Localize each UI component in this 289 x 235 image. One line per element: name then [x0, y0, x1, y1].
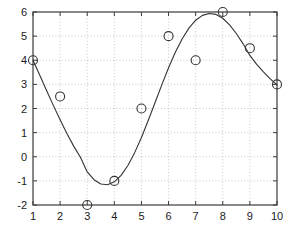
x-tick-label: 2 [57, 210, 63, 222]
y-tick-label: -2 [17, 199, 27, 211]
y-tick-label: 5 [21, 30, 27, 42]
chart-screenshot: 12345678910 -2-10123456 [0, 0, 289, 235]
x-tick-label: 9 [247, 210, 253, 222]
x-tick-label: 6 [165, 210, 171, 222]
y-tick-label: 2 [21, 103, 27, 115]
x-tick-label: 10 [271, 210, 283, 222]
x-tick-label: 3 [84, 210, 90, 222]
x-tick-label: 1 [30, 210, 36, 222]
y-tick-label: 3 [21, 78, 27, 90]
y-tick-label: 6 [21, 6, 27, 18]
y-tick-label: -1 [17, 175, 27, 187]
scatter-plot-figure: 12345678910 -2-10123456 [0, 0, 289, 235]
figure-background [0, 0, 289, 235]
x-tick-label: 8 [220, 210, 226, 222]
y-tick-label: 0 [21, 151, 27, 163]
x-tick-label: 4 [111, 210, 117, 222]
y-tick-label: 4 [21, 54, 27, 66]
x-tick-label: 5 [138, 210, 144, 222]
y-tick-label: 1 [21, 127, 27, 139]
x-tick-label: 7 [193, 210, 199, 222]
